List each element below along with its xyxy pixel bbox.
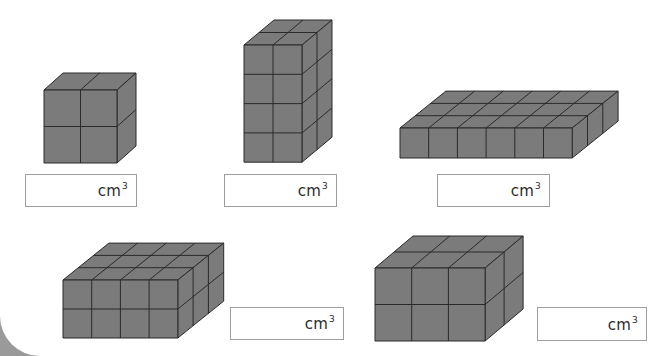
- unit-label: cm3: [608, 315, 638, 334]
- unit-exponent: 3: [535, 181, 541, 191]
- cuboid-1: [44, 73, 136, 163]
- cuboid-4: [63, 243, 224, 338]
- answer-box-1[interactable]: cm3: [25, 174, 137, 207]
- unit-base: cm: [608, 316, 631, 334]
- unit-label: cm3: [511, 181, 541, 200]
- unit-base: cm: [98, 182, 121, 200]
- answer-box-2[interactable]: cm3: [224, 174, 337, 207]
- unit-label: cm3: [298, 181, 328, 200]
- worksheet-page: cm3cm3cm3cm3cm3: [0, 0, 658, 356]
- cuboid-2: [244, 20, 332, 162]
- unit-label: cm3: [98, 181, 128, 200]
- unit-exponent: 3: [322, 181, 328, 191]
- answer-box-4[interactable]: cm3: [230, 307, 344, 340]
- unit-base: cm: [305, 315, 328, 333]
- answer-box-3[interactable]: cm3: [437, 174, 550, 207]
- answer-box-5[interactable]: cm3: [537, 307, 647, 341]
- unit-base: cm: [298, 182, 321, 200]
- unit-exponent: 3: [632, 315, 638, 325]
- cuboid-5: [375, 236, 523, 341]
- cuboid-3: [400, 91, 618, 158]
- unit-exponent: 3: [122, 181, 128, 191]
- unit-base: cm: [511, 182, 534, 200]
- unit-label: cm3: [305, 314, 335, 333]
- unit-exponent: 3: [329, 314, 335, 324]
